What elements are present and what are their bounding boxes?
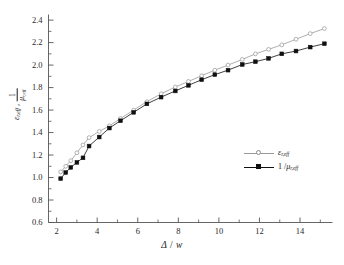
y-axis-fraction-denominator: μr,eff <box>16 89 25 102</box>
x-axis-w-symbol: w <box>176 240 183 250</box>
y-axis-mu-symbol: μ <box>16 97 25 101</box>
data-point-marker <box>145 102 149 106</box>
x-axis-tick-label: 6 <box>128 226 148 236</box>
data-point-marker <box>97 130 101 134</box>
legend-label: εr,eff <box>278 148 289 157</box>
data-point-marker <box>226 63 230 67</box>
data-point-marker <box>226 68 230 72</box>
y-axis-tick-label: 1.0 <box>17 172 43 182</box>
legend-marker-filled-square <box>256 164 261 169</box>
x-axis-title: Δ / w <box>0 240 344 250</box>
y-axis-tick-label: 2.4 <box>17 15 43 25</box>
data-point-marker <box>69 166 73 170</box>
y-axis-epsilon-subscript: r,eff <box>15 108 21 117</box>
data-point-marker <box>240 58 244 62</box>
figure-caption <box>0 256 344 265</box>
y-axis-mu-subscript: r,eff <box>20 90 25 97</box>
data-point-marker <box>64 171 68 175</box>
data-point-marker <box>294 49 298 53</box>
data-point-marker <box>87 136 91 140</box>
legend-entry-0[interactable]: εr,eff <box>244 146 298 160</box>
data-point-marker <box>308 45 312 49</box>
data-point-marker <box>81 143 85 147</box>
data-point-marker <box>97 135 101 139</box>
data-point-marker <box>187 80 191 84</box>
data-point-marker <box>213 68 217 72</box>
x-axis-tick-label: 2 <box>47 226 67 236</box>
x-axis-tick-label: 4 <box>87 226 107 236</box>
data-point-marker <box>59 170 63 174</box>
data-point-marker <box>64 164 68 168</box>
data-point-marker <box>200 78 204 82</box>
data-point-marker <box>280 52 284 56</box>
data-point-marker <box>254 60 258 64</box>
data-point-marker <box>213 73 217 77</box>
legend-entry-1[interactable]: 1 /μr,eff <box>244 160 298 174</box>
data-point-marker <box>107 126 111 130</box>
x-axis-tick-label: 12 <box>249 226 269 236</box>
data-point-marker <box>159 95 163 99</box>
data-point-marker <box>280 43 284 47</box>
data-point-marker <box>322 42 326 46</box>
data-point-marker <box>59 177 63 181</box>
y-axis-fraction: 1 μr,eff <box>9 89 26 102</box>
data-point-marker <box>75 151 79 155</box>
y-axis-tick-label: 2.2 <box>17 37 43 47</box>
y-axis-comma: , <box>11 104 21 108</box>
data-point-marker <box>254 52 258 56</box>
legend: εr,eff1 /μr,eff <box>244 146 298 174</box>
data-point-marker <box>75 160 79 164</box>
data-point-marker <box>132 110 136 114</box>
legend-prefix: 1 / <box>278 162 286 171</box>
data-point-marker <box>267 56 271 60</box>
legend-label: 1 /μr,eff <box>278 162 298 171</box>
y-axis-fraction-numerator: 1 <box>9 89 17 102</box>
y-axis-tick-label: 0.8 <box>17 195 43 205</box>
data-point-marker <box>87 144 91 148</box>
legend-symbol-subscript: r,eff <box>281 152 289 158</box>
legend-symbol-subscript: r,eff <box>290 166 298 172</box>
data-point-marker <box>69 159 73 163</box>
data-point-marker <box>173 89 177 93</box>
legend-marker-open-circle <box>256 150 261 155</box>
data-point-marker <box>322 27 326 31</box>
y-axis-tick-label: 0.6 <box>17 217 43 227</box>
data-point-marker <box>187 83 191 87</box>
legend-swatch <box>244 147 274 159</box>
data-point-marker <box>294 37 298 41</box>
x-axis-tick-label: 10 <box>209 226 229 236</box>
y-axis-title: εr,eff , 1 μr,eff <box>9 49 26 159</box>
x-axis-tick-label: 8 <box>168 226 188 236</box>
data-point-marker <box>81 156 85 160</box>
figure-chart: 0.60.81.01.21.41.61.82.02.22.4 246810121… <box>0 0 344 265</box>
data-point-marker <box>267 47 271 51</box>
data-point-marker <box>240 63 244 67</box>
x-axis-tick-label: 14 <box>290 226 310 236</box>
data-point-marker <box>308 32 312 36</box>
data-point-marker <box>173 85 177 89</box>
data-point-marker <box>200 74 204 78</box>
legend-swatch <box>244 161 274 173</box>
y-axis-epsilon-symbol: ε <box>11 117 21 120</box>
data-point-marker <box>119 119 123 123</box>
x-axis-slash: / <box>167 240 176 250</box>
